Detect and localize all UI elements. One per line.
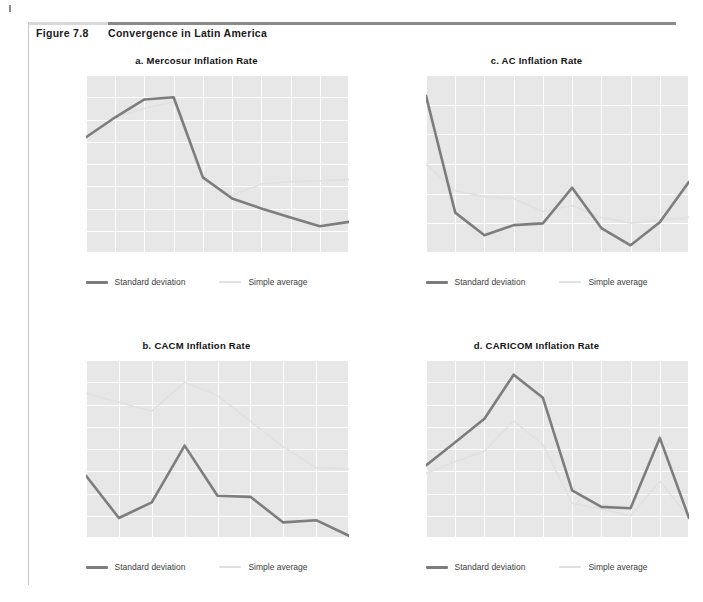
chart-panel-ac: c. AC Inflation Rate2.53.03.54.04.55.05.… [374,55,699,297]
legend-swatch-simple-average [219,281,241,283]
plot-area-cacm: 1.41.61.82.02.22.42.62.83.01992939495969… [86,360,349,538]
plot-area-caricom: 1.01.52.02.53.03.54.04.55.01991929394959… [426,360,689,538]
header-rule-light [28,22,108,25]
chart-legend-ac: Standard deviationSimple average [374,277,699,287]
legend-item-simple-average: Simple average [219,277,307,287]
legend-label-standard-deviation: Standard deviation [455,277,526,287]
series-layer-ac [426,75,689,253]
legend-item-simple-average: Simple average [559,277,647,287]
legend-item-simple-average: Simple average [559,562,647,572]
legend-swatch-simple-average [219,566,241,568]
legend-label-standard-deviation: Standard deviation [455,562,526,572]
legend-swatch-standard-deviation [86,281,108,284]
figure-title: Convergence in Latin America [108,27,267,39]
chart-panel-mercosur: a. Mercosur Inflation Rate0.01.02.03.04.… [34,55,359,297]
chart-title-caricom: d. CARICOM Inflation Rate [374,340,699,351]
figure-number: Figure 7.8 [36,27,108,39]
plot-area-ac: 2.53.03.54.04.55.05.51991929394959697989… [426,75,689,253]
series-line-standard-deviation [86,97,349,226]
legend-item-standard-deviation: Standard deviation [86,277,186,287]
series-layer-cacm [86,360,349,538]
chart-legend-cacm: Standard deviationSimple average [34,562,359,572]
legend-label-standard-deviation: Standard deviation [115,562,186,572]
legend-swatch-standard-deviation [86,566,108,569]
legend-label-simple-average: Simple average [588,562,647,572]
legend-label-simple-average: Simple average [588,277,647,287]
legend-swatch-standard-deviation [426,566,448,569]
series-layer-caricom [426,360,689,538]
series-layer-mercosur [86,75,349,253]
legend-label-simple-average: Simple average [248,277,307,287]
legend-swatch-simple-average [559,566,581,568]
chart-legend-mercosur: Standard deviationSimple average [34,277,359,287]
legend-swatch-standard-deviation [426,281,448,284]
header-rule [28,22,676,25]
legend-swatch-simple-average [559,281,581,283]
chart-title-ac: c. AC Inflation Rate [374,55,699,66]
plot-area-mercosur: 0.01.02.03.04.05.06.07.08.01991929394959… [86,75,349,253]
figure-header: Figure 7.8 Convergence in Latin America [36,27,267,39]
chart-title-cacm: b. CACM Inflation Rate [34,340,359,351]
legend-item-standard-deviation: Standard deviation [86,562,186,572]
legend-item-standard-deviation: Standard deviation [426,277,526,287]
chart-panel-caricom: d. CARICOM Inflation Rate1.01.52.02.53.0… [374,340,699,582]
legend-item-simple-average: Simple average [219,562,307,572]
series-line-standard-deviation [426,375,689,518]
legend-label-simple-average: Simple average [248,562,307,572]
chart-title-mercosur: a. Mercosur Inflation Rate [34,55,359,66]
series-line-simple-average [86,382,349,469]
legend-item-standard-deviation: Standard deviation [426,562,526,572]
scan-speck [9,5,11,12]
figure-left-rule [28,22,29,585]
legend-label-standard-deviation: Standard deviation [115,277,186,287]
chart-legend-caricom: Standard deviationSimple average [374,562,699,572]
series-line-simple-average [426,164,689,223]
figure-page: Figure 7.8 Convergence in Latin America … [0,0,703,602]
series-line-standard-deviation [426,96,689,246]
series-line-simple-average [86,102,349,195]
series-line-standard-deviation [86,446,349,536]
chart-panel-cacm: b. CACM Inflation Rate1.41.61.82.02.22.4… [34,340,359,582]
